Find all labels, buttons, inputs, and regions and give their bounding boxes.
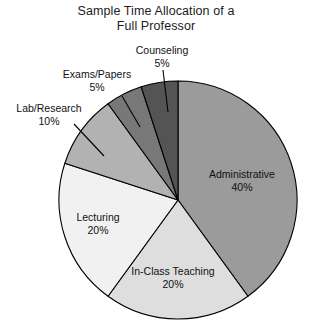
slice-label-in-class-teaching-value: 20%	[118, 278, 228, 291]
slice-label-lecturing-name: Lecturing	[62, 211, 134, 224]
slice-label-counseling: Counseling 5%	[126, 44, 198, 69]
slice-label-administrative: Administrative 40%	[196, 168, 288, 193]
slice-label-lab-research: Lab/Research 10%	[6, 102, 92, 127]
slice-label-exams-papers: Exams/Papers 5%	[52, 68, 142, 93]
slice-label-administrative-value: 40%	[196, 181, 288, 194]
slice-label-lecturing: Lecturing 20%	[62, 211, 134, 236]
slice-label-in-class-teaching-name: In-Class Teaching	[118, 265, 228, 278]
pie-chart-figure: Sample Time Allocation of a Full Profess…	[0, 0, 312, 335]
slice-label-exams-papers-value: 5%	[52, 81, 142, 94]
slice-label-lab-research-name: Lab/Research	[6, 102, 92, 115]
slice-label-in-class-teaching: In-Class Teaching 20%	[118, 265, 228, 290]
slice-label-exams-papers-name: Exams/Papers	[52, 68, 142, 81]
slice-label-counseling-name: Counseling	[126, 44, 198, 57]
slice-label-administrative-name: Administrative	[196, 168, 288, 181]
slice-label-lab-research-value: 10%	[6, 115, 92, 128]
slice-label-lecturing-value: 20%	[62, 224, 134, 237]
